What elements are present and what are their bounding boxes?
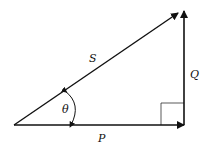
label-p: P [97, 132, 106, 144]
vector-triangle-diagram: S Q P θ [0, 0, 206, 144]
label-q: Q [190, 68, 199, 81]
right-angle-marker [161, 103, 184, 125]
diagram-canvas: S Q P θ [0, 0, 206, 144]
label-s: S [89, 52, 97, 65]
label-theta: θ [62, 103, 69, 116]
vector-s-arrow [14, 13, 178, 125]
